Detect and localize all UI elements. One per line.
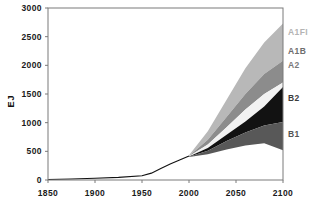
y-tick-label: 2000 — [21, 60, 42, 70]
energy-scenarios-area-chart — [0, 0, 320, 206]
x-tick-label: 1950 — [122, 188, 162, 198]
x-tick-label: 2100 — [263, 188, 303, 198]
y-tick-label: 2500 — [21, 32, 42, 42]
x-tick-label: 2000 — [169, 188, 209, 198]
series-label-b1: B1 — [288, 129, 300, 139]
y-tick-label: 500 — [27, 146, 42, 156]
y-tick-label: 1000 — [21, 118, 42, 128]
series-label-a2: A2 — [288, 60, 300, 70]
chart-figure: EJ 0500100015002000250030001850190019502… — [0, 0, 320, 206]
y-axis-title: EJ — [6, 86, 16, 116]
y-tick-label: 0 — [37, 175, 42, 185]
x-tick-label: 2050 — [216, 188, 256, 198]
series-label-a1fi: A1FI — [288, 27, 308, 37]
y-tick-label: 3000 — [21, 3, 42, 13]
series-label-a1b: A1B — [288, 46, 306, 56]
series-label-b2: B2 — [288, 93, 300, 103]
x-tick-label: 1850 — [28, 188, 68, 198]
y-tick-label: 1500 — [21, 89, 42, 99]
x-tick-label: 1900 — [75, 188, 115, 198]
